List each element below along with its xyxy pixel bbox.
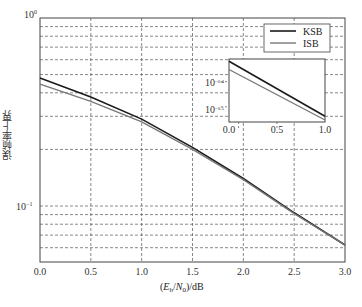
- legend: KSB ISB: [264, 24, 330, 52]
- x-tick-label: 1.0: [135, 266, 148, 277]
- y-tick-mid: 10−1: [16, 201, 32, 212]
- inset-x-tick-label: 0.5: [271, 124, 284, 135]
- x-tick-label: 0.0: [34, 266, 47, 277]
- grid-lines: [40, 18, 345, 262]
- x-tick-label: 2.5: [288, 266, 301, 277]
- x-tick-label: 1.5: [186, 266, 199, 277]
- legend-label-ksb: KSB: [303, 26, 323, 37]
- ber-chart: 0.00.51.01.52.02.53.0 100 10−1 (Eb/N0)/d…: [0, 0, 362, 307]
- y-tick-top: 100: [24, 9, 37, 20]
- inset-x-tick-label: 0.0: [223, 124, 236, 135]
- inset-x-tick-label: 1.0: [319, 124, 332, 135]
- x-tick-label: 0.5: [85, 266, 98, 277]
- x-axis-label: (Eb/N0)/dB: [160, 281, 204, 294]
- legend-label-isb: ISB: [303, 38, 319, 49]
- inset-plot: 10−0.4 10−0.5 0.00.51.0: [205, 59, 331, 135]
- x-tick-label: 2.0: [237, 266, 250, 277]
- inset-x-tick-labels: 0.00.51.0: [223, 124, 332, 135]
- x-tick-labels: 0.00.51.01.52.02.53.0: [34, 266, 352, 277]
- x-tick-label: 3.0: [339, 266, 352, 277]
- inset-y-tick-2: 10−0.5: [205, 104, 225, 115]
- inset-y-tick-1: 10−0.4: [205, 77, 225, 88]
